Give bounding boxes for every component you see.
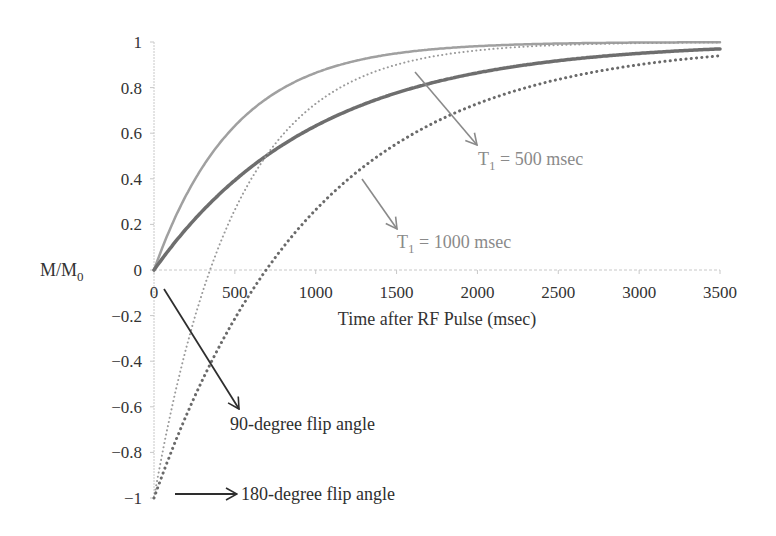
arrow-icon xyxy=(362,179,397,229)
x-tick-label: 2500 xyxy=(541,283,575,302)
axes: 10.80.60.40.20−0.2−0.4−0.6−0.8−1 0500100… xyxy=(111,33,737,508)
y-tick-label: −0.8 xyxy=(111,443,142,462)
x-axis-ticks: 0500100015002000250030003500 xyxy=(150,270,737,302)
y-tick-label: 0 xyxy=(134,261,143,280)
y-tick-label: 1 xyxy=(134,33,143,52)
y-tick-label: −0.4 xyxy=(111,352,142,371)
x-tick-label: 0 xyxy=(150,283,159,302)
annotation-label: T1 = 1000 msec xyxy=(397,232,511,256)
annotation-label: 180-degree flip angle xyxy=(241,484,395,504)
arrow-icon xyxy=(415,72,477,145)
x-tick-label: 3500 xyxy=(703,283,737,302)
y-tick-label: 0.4 xyxy=(121,170,143,189)
y-tick-label: −1 xyxy=(124,489,142,508)
annotation-t1-500: T1 = 500 msec xyxy=(415,72,583,173)
y-tick-label: 0.2 xyxy=(121,215,142,234)
x-tick-label: 1500 xyxy=(380,283,414,302)
t1-recovery-chart: 10.80.60.40.20−0.2−0.4−0.6−0.8−1 0500100… xyxy=(0,0,776,536)
y-tick-label: −0.6 xyxy=(111,398,142,417)
annotation-label: T1 = 500 msec xyxy=(478,149,583,173)
x-tick-label: 1000 xyxy=(299,283,333,302)
y-tick-label: 0.6 xyxy=(121,124,142,143)
y-axis-ticks: 10.80.60.40.20−0.2−0.4−0.6−0.8−1 xyxy=(111,33,154,508)
arrow-icon xyxy=(164,289,239,409)
x-tick-label: 500 xyxy=(222,283,248,302)
annotation-label: 90-degree flip angle xyxy=(230,414,375,434)
annotation-180-degree: 180-degree flip angle xyxy=(175,484,395,504)
annotation-t1-1000: T1 = 1000 msec xyxy=(362,179,511,256)
x-tick-label: 2000 xyxy=(460,283,494,302)
y-tick-label: 0.8 xyxy=(121,79,142,98)
y-axis-title: M/M0 xyxy=(40,260,84,284)
x-tick-label: 3000 xyxy=(622,283,656,302)
y-tick-label: −0.2 xyxy=(111,307,142,326)
x-axis-title: Time after RF Pulse (msec) xyxy=(338,309,536,330)
